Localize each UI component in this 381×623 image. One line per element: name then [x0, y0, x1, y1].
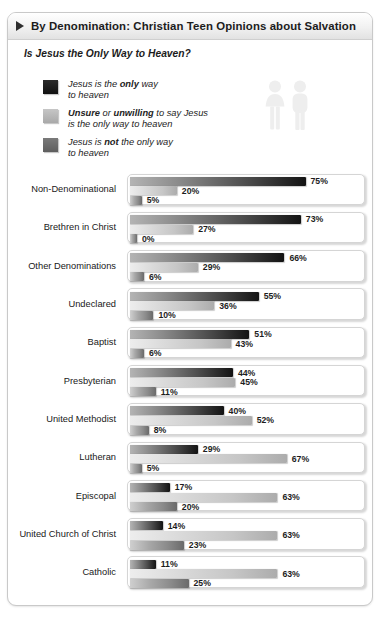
bar-chart: Non-Denominational75%20%5%Brethren in Ch…	[8, 170, 373, 591]
bar-value-label: 44%	[238, 368, 255, 378]
chart-legend: Jesus is the only way to heaven Unsure o…	[43, 79, 273, 165]
legend-item-only-way: Jesus is the only way to heaven	[43, 79, 273, 102]
bar-value-label: 0%	[142, 234, 155, 244]
bar-stack: 55%36%10%	[128, 292, 364, 322]
bar-value-label: 52%	[257, 415, 274, 425]
category-label: Baptist	[8, 323, 122, 361]
bar-segment	[130, 177, 306, 186]
bar-row: 8%	[128, 426, 364, 435]
category-panel: 44%45%11%	[127, 365, 365, 397]
bar-value-label: 29%	[203, 262, 220, 272]
category-panel: 75%20%5%	[127, 174, 365, 206]
bar-row: 29%	[128, 445, 364, 454]
bar-row: 23%	[128, 541, 364, 550]
bar-segment	[130, 502, 177, 511]
chart-card: By Denomination: Christian Teen Opinions…	[7, 12, 373, 606]
bar-segment	[130, 454, 287, 463]
category-panel: 40%52%8%	[127, 403, 365, 435]
legend-text-pre: Jesus is the	[68, 79, 120, 89]
page-title: By Denomination: Christian Teen Opinions…	[31, 20, 356, 32]
two-people-icon	[261, 79, 317, 133]
bar-row: 63%	[128, 569, 364, 578]
legend-label-only-way: Jesus is the only way to heaven	[68, 79, 158, 102]
bar-value-label: 25%	[194, 578, 211, 588]
bar-stack: 11%63%25%	[128, 560, 364, 590]
bar-segment	[130, 541, 184, 550]
chart-group: Undeclared55%36%10%	[8, 285, 373, 323]
bar-segment	[130, 272, 144, 281]
bar-row: 40%	[128, 406, 364, 415]
bar-value-label: 23%	[189, 540, 206, 550]
bar-row: 11%	[128, 560, 364, 569]
bar-row: 45%	[128, 378, 364, 387]
bar-segment	[130, 464, 142, 473]
bar-value-label: 55%	[264, 291, 281, 301]
legend-swatch-only-way	[43, 80, 58, 94]
legend-text-bold: not	[104, 137, 118, 147]
legend-text-mid: or	[100, 108, 113, 118]
bar-segment	[130, 445, 198, 454]
bar-row: 36%	[128, 301, 364, 310]
bar-segment	[130, 215, 301, 224]
legend-text-line2: is the only way to heaven	[68, 119, 172, 129]
triangle-right-icon	[16, 21, 24, 31]
chart-group: Presbyterian44%45%11%	[8, 361, 373, 399]
bar-value-label: 43%	[236, 339, 253, 349]
bar-segment	[130, 483, 170, 492]
chart-group: Non-Denominational75%20%5%	[8, 170, 373, 208]
legend-text-line2: to heaven	[68, 90, 109, 100]
legend-item-not-only-way: Jesus is not the only way to heaven	[43, 137, 273, 160]
category-panel: 73%27%0%	[127, 212, 365, 244]
category-label: Other Denominations	[8, 247, 122, 285]
bar-stack: 73%27%0%	[128, 215, 364, 245]
bar-stack: 51%43%6%	[128, 330, 364, 360]
bar-segment	[130, 521, 163, 530]
chart-group: Episcopal17%63%20%	[8, 476, 373, 514]
bar-stack: 75%20%5%	[128, 177, 364, 207]
category-label: United Methodist	[8, 400, 122, 438]
category-label: Catholic	[8, 553, 122, 591]
bar-row: 5%	[128, 196, 364, 205]
bar-value-label: 8%	[154, 425, 167, 435]
bar-row: 44%	[128, 368, 364, 377]
bar-row: 73%	[128, 215, 364, 224]
bar-value-label: 75%	[311, 176, 328, 186]
bar-value-label: 63%	[282, 569, 299, 579]
bar-row: 52%	[128, 416, 364, 425]
bar-stack: 17%63%20%	[128, 483, 364, 513]
bar-row: 66%	[128, 253, 364, 262]
bar-value-label: 66%	[289, 253, 306, 263]
bar-value-label: 36%	[219, 301, 236, 311]
bar-segment	[130, 225, 193, 234]
bar-stack: 40%52%8%	[128, 406, 364, 436]
legend-text-bold: Unsure	[68, 108, 100, 118]
bar-row: 63%	[128, 531, 364, 540]
bar-row: 43%	[128, 339, 364, 348]
category-panel: 55%36%10%	[127, 288, 365, 320]
bar-segment	[130, 330, 249, 339]
category-panel: 11%63%25%	[127, 556, 365, 588]
bar-value-label: 10%	[158, 310, 175, 320]
chart-group: Catholic11%63%25%	[8, 553, 373, 591]
bar-value-label: 67%	[292, 454, 309, 464]
legend-text-post: the only way	[119, 137, 173, 147]
bar-value-label: 5%	[147, 195, 160, 205]
bar-value-label: 63%	[282, 530, 299, 540]
chart-title-bar: By Denomination: Christian Teen Opinions…	[8, 13, 372, 40]
bar-segment	[130, 311, 153, 320]
bar-value-label: 73%	[306, 214, 323, 224]
bar-value-label: 27%	[198, 224, 215, 234]
chart-subtitle: Is Jesus the Only Way to Heaven?	[24, 48, 191, 59]
bar-value-label: 45%	[240, 377, 257, 387]
legend-text-line2: to heaven	[68, 148, 109, 158]
bar-segment	[130, 426, 149, 435]
bar-row: 75%	[128, 177, 364, 186]
legend-text-post: to say Jesus	[154, 108, 208, 118]
category-label: Brethren in Christ	[8, 208, 122, 246]
category-panel: 29%67%5%	[127, 442, 365, 474]
bar-stack: 44%45%11%	[128, 368, 364, 398]
bar-segment	[130, 234, 137, 243]
bar-row: 20%	[128, 502, 364, 511]
bar-value-label: 6%	[149, 348, 162, 358]
bar-value-label: 51%	[254, 329, 271, 339]
